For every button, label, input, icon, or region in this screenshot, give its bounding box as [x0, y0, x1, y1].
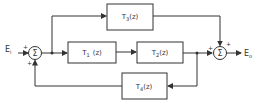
block-t2-label: T2(z) [151, 49, 169, 58]
block-diagram: Ei Eo Σ Σ + + + + T1(z) T2(z) T3(z) T4(z… [0, 0, 263, 106]
block-t4-label: T4(z) [135, 83, 153, 92]
junction-dot-2 [196, 52, 199, 55]
sum1-symbol: Σ [32, 49, 37, 58]
line-t3-sum2 [153, 16, 220, 46]
sum2-sign-left: + [208, 44, 213, 51]
sum1-sign-bottom: + [27, 59, 32, 66]
junction-dot-1 [51, 52, 54, 55]
input-label: Ei [5, 45, 11, 55]
line-t4-sum1 [35, 61, 122, 87]
block-t3-label: T3(z) [121, 13, 139, 22]
block-t1-label: T1(z) [81, 49, 102, 58]
line-to-t3 [52, 16, 106, 53]
output-label: Eo [244, 49, 252, 59]
sum1-sign-left: + [23, 43, 28, 50]
sum2-sign-top: + [226, 40, 231, 47]
sum2-symbol: Σ [217, 49, 222, 58]
